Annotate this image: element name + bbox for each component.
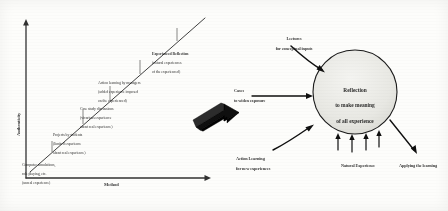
lectures-line1: Lectures <box>258 36 330 41</box>
action-learning-line2: for new experiences <box>236 166 306 171</box>
applying-learning-line1: Applying the learning <box>388 163 448 168</box>
natural-experience-line1: Natural Experience <box>318 163 398 168</box>
reflection-center-line3: of all experience <box>318 118 392 126</box>
input-label-cases: Cases to widen exposure <box>234 83 296 108</box>
reflection-center-line2: to make meaning <box>318 102 392 110</box>
input-label-lectures: Lectures for conceptual inputs <box>258 31 330 56</box>
applying-learning-arrow <box>390 120 414 150</box>
lectures-line2: for conceptual inputs <box>258 46 330 51</box>
cases-line2: to widen exposure <box>234 98 296 103</box>
input-label-natural-experience: Natural Experience <box>318 158 398 173</box>
action-learning-arrowhead <box>305 125 314 132</box>
cases-arrowhead <box>306 93 313 99</box>
input-label-applying-learning: Applying the learning <box>388 158 448 173</box>
input-label-action-learning: Action Learning for new experiences <box>236 151 306 176</box>
action-learning-arrow <box>273 127 310 150</box>
cases-line1: Cases <box>234 88 296 93</box>
action-learning-line1: Action Learning <box>236 156 306 161</box>
diagram-canvas: Authenticity Method Computer simulations… <box>0 0 448 211</box>
reflection-center-text: Reflection to make meaning of all experi… <box>318 79 392 134</box>
reflection-center-line1: Reflection <box>318 87 392 95</box>
